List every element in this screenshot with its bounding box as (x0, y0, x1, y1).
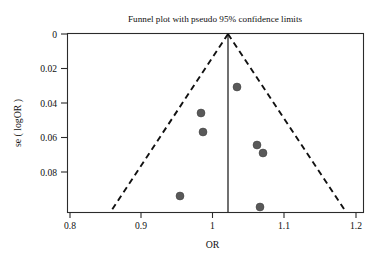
funnel-plot-canvas: Funnel plot with pseudo 95% confidence l… (0, 0, 374, 260)
y-axis-title: se ( logOR ) (12, 99, 24, 147)
funnel-right-limit-line (228, 34, 346, 212)
x-tick-label-4: 1.2 (350, 220, 362, 231)
data-point (259, 149, 267, 157)
x-tick-label-2: 1 (210, 220, 215, 231)
x-axis-title: OR (206, 239, 220, 250)
y-axis-ticks (61, 34, 68, 172)
x-tick-label-3: 1.1 (278, 220, 290, 231)
chart-title: Funnel plot with pseudo 95% confidence l… (128, 14, 302, 24)
y-tick-label-4: 0.08 (40, 167, 57, 178)
y-tick-label-1: 0.02 (40, 63, 57, 74)
data-point (176, 192, 184, 200)
y-tick-label-3: 0.06 (40, 132, 57, 143)
x-tick-label-0: 0.8 (64, 220, 76, 231)
data-points-group (176, 83, 267, 211)
data-point (197, 109, 205, 117)
funnel-plot-figure: Funnel plot with pseudo 95% confidence l… (0, 0, 374, 260)
x-axis-ticks (70, 213, 356, 219)
plot-frame (68, 34, 364, 213)
data-point (253, 141, 261, 149)
data-point (233, 83, 241, 91)
data-point (256, 203, 264, 211)
data-point (199, 128, 207, 136)
funnel-left-limit-line (111, 34, 229, 212)
y-tick-label-2: 0.04 (40, 98, 57, 109)
x-tick-label-1: 0.9 (135, 220, 147, 231)
y-tick-label-0: 0 (52, 29, 57, 40)
plot-border (68, 34, 364, 213)
